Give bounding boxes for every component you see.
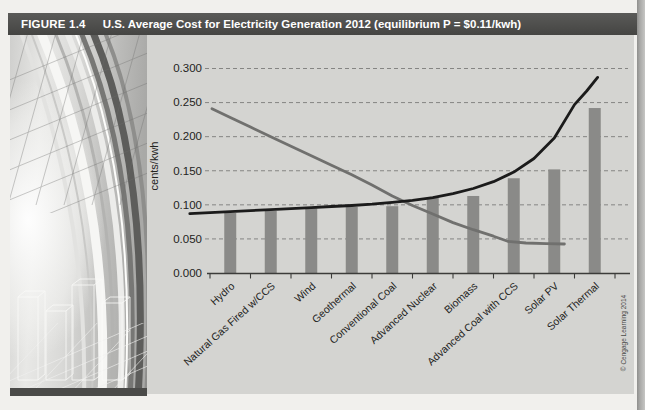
page-edge-strip [637,0,645,410]
cost-bar [265,211,277,273]
y-tick-label: 0.300 [173,62,202,74]
y-tick-label: 0.200 [173,130,202,142]
figure-title: U.S. Average Cost for Electricity Genera… [103,18,522,30]
figure-1-4: FIGURE 1.4 U.S. Average Cost for Electri… [8,13,637,396]
y-axis-title: cents/kwh [148,142,160,191]
cost-bar [467,196,479,273]
cost-bar [346,207,358,273]
photo-bottom-edge [10,388,147,396]
y-tick-label: 0.100 [173,199,202,211]
figure-label: FIGURE 1.4 [21,18,86,30]
cost-bar [224,213,236,273]
photo-art [10,35,147,396]
x-category-label: Solar PV [522,280,561,317]
y-tick-label: 0.050 [173,233,202,245]
chart-svg: 0.3000.2500.2000.1500.1000.0500.000cents… [147,35,634,394]
y-tick-label: 0.000 [173,267,202,279]
x-category-label: Advanced Nuclear [367,279,439,346]
cost-bar [548,169,560,273]
cost-bar [589,108,601,273]
figure-header: FIGURE 1.4 U.S. Average Cost for Electri… [8,13,637,35]
page: FIGURE 1.4 U.S. Average Cost for Electri… [0,0,645,410]
cost-bar [305,208,317,273]
y-tick-label: 0.250 [173,96,202,108]
x-category-label: Hydro [208,279,237,307]
x-category-label: Biomass [442,280,480,316]
copyright-credit: © Cengage Learning 2014 [620,294,628,371]
cost-bar [508,178,520,273]
supply-curve [190,77,598,213]
x-category-label: Wind [292,279,318,304]
chart-region: 0.3000.2500.2000.1500.1000.0500.000cents… [147,35,634,394]
cost-bar [427,198,439,273]
y-tick-label: 0.150 [173,165,202,177]
chapter-opener-photo [10,35,147,396]
cost-bar [386,206,398,273]
